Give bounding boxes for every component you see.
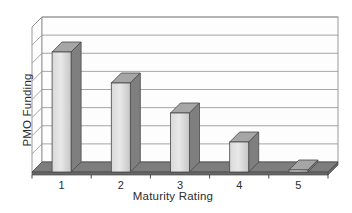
- x-axis-title: Maturity Rating: [133, 190, 213, 202]
- x-tick-label-5: 5: [295, 179, 301, 191]
- x-tick-label-4: 4: [236, 179, 242, 191]
- bar-3-side: [190, 103, 200, 172]
- bar-4-front: [230, 142, 249, 172]
- bar-chart-figure: 12345 PMO Funding Maturity Rating: [0, 0, 352, 213]
- x-tick-label-1: 1: [59, 179, 65, 191]
- bar-2-front: [111, 83, 130, 172]
- x-tick-label-2: 2: [118, 179, 124, 191]
- bar-1-side: [71, 42, 81, 172]
- floor-front: [32, 172, 328, 175]
- chart-canvas: 12345: [0, 0, 352, 213]
- y-axis-title: PMO Funding: [21, 73, 33, 146]
- bar-5-front: [289, 170, 308, 172]
- bar-3-front: [171, 113, 190, 172]
- bar-2-side: [130, 73, 140, 172]
- bar-1-front: [52, 52, 71, 172]
